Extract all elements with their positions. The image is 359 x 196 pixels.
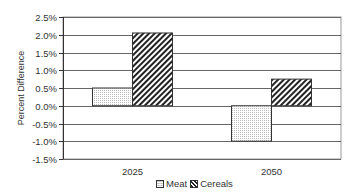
y-tick-label: 0.0% [35,101,57,112]
meat-swatch-icon [156,180,164,188]
legend-label-meat: Meat [166,178,187,189]
y-tick-label: -1.5% [32,154,57,165]
y-tick-label: -1.0% [32,136,57,147]
bar-cereals-2050 [272,79,312,106]
bar-chart: 2.5%2.0%1.5%1.0%0.5%0.0%-0.5%-1.0%-1.5% … [0,0,359,196]
y-tick-label: 1.5% [35,48,57,59]
y-tick-label: 1.0% [35,65,57,76]
legend-item-cereals: Cereals [190,178,233,189]
y-tick-label: 0.5% [35,83,57,94]
bar-meat-2025 [93,88,133,106]
bar-meat-2050 [232,106,272,142]
y-axis-title: Percent Difference [16,51,26,125]
y-tick-label: 2.5% [35,12,57,23]
y-tick-label: 2.0% [35,30,57,41]
legend-item-meat: Meat [156,178,187,189]
legend-label-cereals: Cereals [200,178,233,189]
y-tick-label: -0.5% [32,119,57,130]
cereals-swatch-icon [190,180,198,188]
x-tick-label: 2050 [261,166,282,177]
x-tick-label: 2025 [122,166,143,177]
y-axis: 2.5%2.0%1.5%1.0%0.5%0.0%-0.5%-1.0%-1.5% [32,12,63,165]
bars [93,33,312,141]
bar-cereals-2025 [133,33,173,106]
x-axis-labels: 20252050 [122,166,282,177]
legend: Meat Cereals [156,178,233,189]
